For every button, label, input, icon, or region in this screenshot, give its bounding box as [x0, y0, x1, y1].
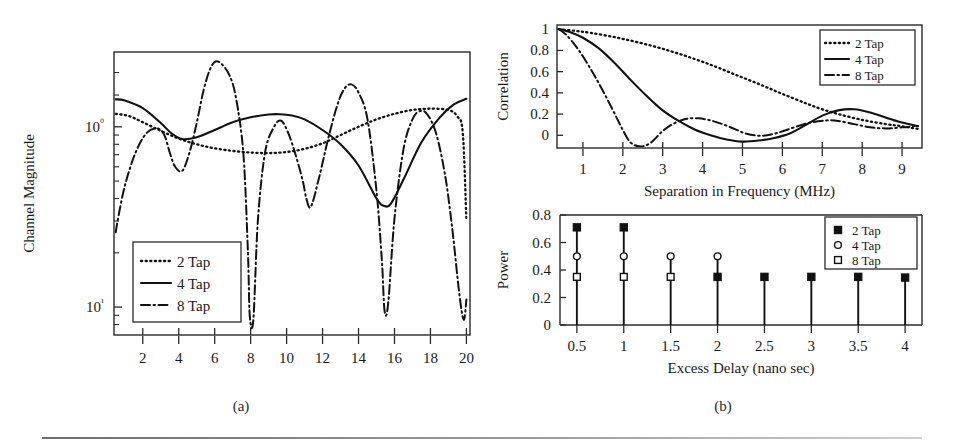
x-tick-label: 6 [211, 350, 219, 366]
x-tick-label: 2 [714, 338, 722, 354]
y-tick-label: 0 [544, 317, 552, 333]
marker-4-tap [714, 253, 721, 260]
legend-label: 8 Tap [177, 298, 210, 314]
legend-label: 2 Tap [852, 223, 881, 238]
y-tick-label: 0.4 [532, 262, 551, 278]
x-tick-label: 18 [423, 350, 438, 366]
marker-4-tap [620, 253, 627, 260]
legend-label: 2 Tap [177, 254, 210, 270]
x-tick-label: 20 [459, 350, 474, 366]
y-tick-label: 0 [542, 127, 550, 143]
x-tick-label: 4 [175, 350, 183, 366]
legend-label: 4 Tap [855, 52, 884, 67]
marker-2-tap [573, 224, 580, 231]
legend-marker [835, 242, 842, 249]
figure-panel-b: 12345678900.20.40.60.81Separation in Fre… [482, 0, 964, 443]
legend-label: 8 Tap [855, 68, 884, 83]
x-tick-label: 3.5 [849, 338, 868, 354]
legend-label: 4 Tap [177, 276, 210, 292]
x-tick-label: 5 [739, 161, 747, 177]
x-tick-label: 3 [808, 338, 816, 354]
x-tick-label: 10 [279, 350, 294, 366]
y-tick-label: 0.4 [530, 85, 549, 101]
x-tick-label: 16 [387, 350, 403, 366]
marker-2-tap [902, 274, 909, 281]
y-tick-label: 0.6 [530, 64, 549, 80]
correlation-chart: 12345678900.20.40.60.81Separation in Fre… [482, 0, 964, 200]
x-tick-label: 14 [351, 350, 367, 366]
marker-4-tap [573, 253, 580, 260]
x-tick-label: 8 [247, 350, 255, 366]
x-axis-title: Excess Delay (nano sec) [667, 360, 814, 377]
y-tick-label: 1 [542, 21, 550, 37]
marker-2-tap [714, 273, 721, 280]
chart-legend: 2 Tap4 Tap8 Tap [133, 242, 241, 322]
marker-2-tap [808, 273, 815, 280]
marker-8-tap [667, 273, 674, 280]
figure-panel-a: 246810121416182010⁰10¹Channel Magnitude2… [0, 0, 482, 443]
y-tick-label: 0.8 [532, 207, 551, 223]
x-tick-label: 2 [619, 161, 627, 177]
marker-8-tap [620, 273, 627, 280]
marker-8-tap [573, 273, 580, 280]
y-tick-label: 0.8 [530, 42, 549, 58]
marker-2-tap [620, 224, 627, 231]
y-axis-title: Power [495, 251, 511, 289]
x-tick-label: 2.5 [755, 338, 774, 354]
x-tick-label: 9 [898, 161, 906, 177]
legend-label: 4 Tap [852, 238, 881, 253]
y-tick-label: 10⁰ [85, 117, 104, 135]
marker-4-tap [667, 253, 674, 260]
y-tick-label: 0.2 [530, 106, 549, 122]
x-tick-label: 1.5 [661, 338, 680, 354]
y-axis-title: Correlation [495, 52, 511, 121]
legend-label: 8 Tap [852, 253, 881, 268]
marker-2-tap [761, 273, 768, 280]
x-tick-label: 12 [315, 350, 330, 366]
legend-label: 2 Tap [855, 36, 884, 51]
y-tick-label: 0.6 [532, 235, 551, 251]
y-tick-label: 0.2 [532, 290, 551, 306]
x-tick-label: 8 [858, 161, 866, 177]
x-tick-label: 1 [579, 161, 587, 177]
panel-b-caption: (b) [482, 398, 964, 415]
legend-marker [835, 257, 842, 264]
page-divider-rule [42, 437, 922, 439]
x-tick-label: 4 [901, 338, 909, 354]
x-tick-label: 4 [699, 161, 707, 177]
x-axis-title: Separation in Frequency (MHz) [644, 183, 835, 200]
chart-legend: 2 Tap4 Tap8 Tap [825, 217, 917, 269]
marker-2-tap [855, 273, 862, 280]
channel-magnitude-chart: 246810121416182010⁰10¹Channel Magnitude2… [0, 0, 482, 395]
legend-marker [834, 226, 841, 233]
x-tick-label: 0.5 [568, 338, 587, 354]
y-axis-title: Channel Magnitude [21, 134, 37, 253]
series-2-tap [116, 109, 467, 221]
x-tick-label: 3 [659, 161, 667, 177]
chart-legend: 2 Tap4 Tap8 Tap [820, 30, 915, 85]
panel-a-caption: (a) [0, 398, 482, 415]
y-tick-label: 10¹ [86, 297, 104, 315]
x-tick-label: 6 [779, 161, 787, 177]
power-delay-chart: 0.511.522.533.5400.20.40.60.8Excess Dela… [482, 200, 964, 395]
x-tick-label: 1 [620, 338, 628, 354]
x-tick-label: 7 [819, 161, 827, 177]
x-tick-label: 2 [139, 350, 147, 366]
